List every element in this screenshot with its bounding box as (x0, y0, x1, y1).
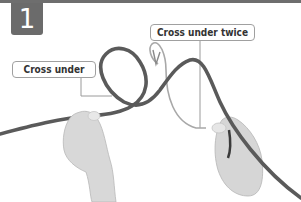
cross-under-label: Cross under (12, 61, 96, 78)
direction-arrow-icon (153, 50, 160, 64)
cross-under-twice-label: Cross under twice (150, 24, 255, 41)
instruction-illustration: 1 Cross under Cross under twice (0, 0, 301, 202)
step-number-badge: 1 (11, 3, 43, 35)
left-hand-icon (63, 111, 116, 202)
